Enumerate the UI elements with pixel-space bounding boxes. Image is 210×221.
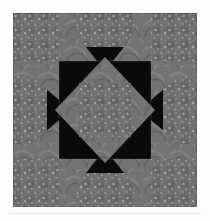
quilt-block-image [13, 13, 197, 207]
content-separator-rule [9, 213, 201, 214]
quilt-pattern-svg [13, 13, 197, 207]
page-canvas [0, 0, 210, 221]
image-caption [13, 215, 197, 220]
center-inner-square [79, 83, 131, 137]
